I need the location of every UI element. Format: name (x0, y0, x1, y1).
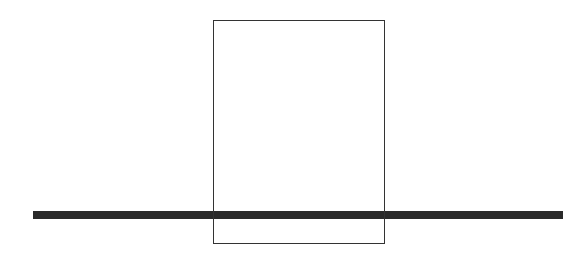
rectangle-outline (213, 20, 385, 244)
